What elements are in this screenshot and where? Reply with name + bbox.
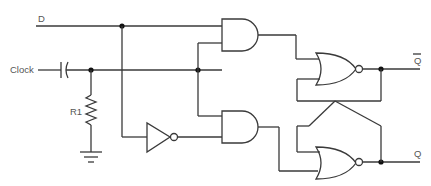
clock-label: Clock <box>10 64 34 75</box>
d-label: D <box>38 13 45 24</box>
nor-gate-top <box>316 53 420 85</box>
circuit-diagram: D Clock R1 <box>0 0 431 186</box>
nor-gate-bottom <box>316 147 420 179</box>
ground-symbol <box>80 152 102 162</box>
and-gate-top <box>222 19 320 59</box>
clock-to-and-wires <box>198 43 222 116</box>
capacitor <box>38 62 222 78</box>
and-gate-bottom <box>222 111 318 171</box>
r1-label: R1 <box>70 106 82 117</box>
q-label: Q <box>414 148 421 159</box>
q-bar-label: Q <box>414 55 421 66</box>
not-gate <box>147 123 222 152</box>
resistor-r1 <box>86 70 96 152</box>
feedback-wires <box>297 69 381 162</box>
d-to-inverter-wire <box>122 26 147 137</box>
